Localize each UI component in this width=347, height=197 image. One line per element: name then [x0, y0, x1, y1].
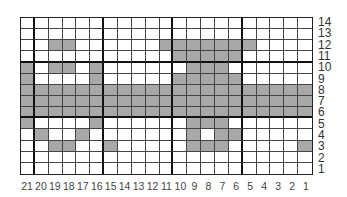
- chart-cell: [229, 74, 243, 85]
- chart-cell: [284, 85, 298, 96]
- chart-cell: [49, 107, 63, 118]
- chart-cell: [63, 74, 77, 85]
- chart-cell: [35, 51, 49, 62]
- chart-cell: [243, 74, 257, 85]
- chart-cell: [104, 129, 118, 140]
- chart-cell: [298, 74, 312, 85]
- chart-cell: [270, 85, 284, 96]
- chart-cell: [160, 40, 174, 51]
- chart-cell: [257, 129, 271, 140]
- chart-cell: [298, 18, 312, 29]
- chart-cell: [49, 18, 63, 29]
- chart-cell: [146, 40, 160, 51]
- chart-cell: [118, 152, 132, 163]
- chart-cell: [21, 85, 35, 96]
- chart-cell: [270, 63, 284, 74]
- chart-cell: [132, 163, 146, 174]
- chart-cell: [90, 29, 104, 40]
- column-label: 17: [76, 180, 90, 192]
- chart-cell: [35, 29, 49, 40]
- chart-cell: [49, 163, 63, 174]
- chart-cell: [104, 63, 118, 74]
- chart-cell: [173, 107, 187, 118]
- chart-cell: [76, 129, 90, 140]
- chart-cell: [243, 40, 257, 51]
- chart-cell: [201, 29, 215, 40]
- chart-cell: [76, 118, 90, 129]
- column-label: 1: [299, 180, 313, 192]
- chart-cell: [201, 18, 215, 29]
- chart-cell: [284, 29, 298, 40]
- chart-cell: [76, 40, 90, 51]
- chart-cell: [104, 85, 118, 96]
- chart-cell: [132, 107, 146, 118]
- column-label: 13: [132, 180, 146, 192]
- chart-cell: [187, 141, 201, 152]
- chart-cell: [215, 29, 229, 40]
- chart-cell: [49, 96, 63, 107]
- chart-cell: [63, 141, 77, 152]
- chart-cell: [21, 163, 35, 174]
- chart-cell: [298, 29, 312, 40]
- chart-cell: [270, 29, 284, 40]
- chart-cell: [146, 163, 160, 174]
- chart-cell: [160, 29, 174, 40]
- chart-cell: [270, 74, 284, 85]
- chart-cell: [284, 63, 298, 74]
- chart-cell: [284, 129, 298, 140]
- column-label: 16: [90, 180, 104, 192]
- chart-cell: [35, 18, 49, 29]
- chart-cell: [63, 29, 77, 40]
- column-label: 10: [173, 180, 187, 192]
- chart-cell: [146, 141, 160, 152]
- chart-cell: [215, 85, 229, 96]
- chart-cell: [146, 107, 160, 118]
- column-label: 3: [271, 180, 285, 192]
- chart-cell: [132, 18, 146, 29]
- chart-cell: [298, 63, 312, 74]
- chart-cell: [187, 129, 201, 140]
- chart-cell: [90, 51, 104, 62]
- chart-cell: [257, 85, 271, 96]
- chart-cell: [215, 163, 229, 174]
- chart-cell: [298, 40, 312, 51]
- chart-cell: [173, 40, 187, 51]
- chart-cell: [173, 51, 187, 62]
- chart-cell: [270, 152, 284, 163]
- chart-cell: [257, 141, 271, 152]
- chart-cell: [146, 74, 160, 85]
- chart-cell: [270, 18, 284, 29]
- column-label: 14: [118, 180, 132, 192]
- chart-cell: [49, 63, 63, 74]
- chart-cell: [90, 18, 104, 29]
- chart-cell: [160, 96, 174, 107]
- chart-cell: [173, 29, 187, 40]
- column-label: 12: [146, 180, 160, 192]
- chart-cell: [201, 141, 215, 152]
- chart-cell: [243, 96, 257, 107]
- chart-cell: [90, 152, 104, 163]
- chart-cell: [35, 118, 49, 129]
- chart-cell: [257, 96, 271, 107]
- chart-cell: [160, 63, 174, 74]
- chart-cell: [173, 85, 187, 96]
- chart-cell: [187, 85, 201, 96]
- chart-cell: [35, 40, 49, 51]
- chart-cell: [118, 29, 132, 40]
- chart-cell: [298, 118, 312, 129]
- chart-cell: [229, 107, 243, 118]
- chart-cell: [201, 74, 215, 85]
- chart-cell: [229, 85, 243, 96]
- chart-cell: [215, 152, 229, 163]
- chart-cell: [76, 163, 90, 174]
- chart-cell: [201, 96, 215, 107]
- chart-cell: [35, 107, 49, 118]
- column-label: 18: [62, 180, 76, 192]
- chart-cell: [201, 51, 215, 62]
- chart-cell: [21, 51, 35, 62]
- chart-cell: [257, 29, 271, 40]
- chart-cell: [201, 152, 215, 163]
- chart-cell: [173, 152, 187, 163]
- chart-cell: [243, 163, 257, 174]
- chart-cell: [243, 129, 257, 140]
